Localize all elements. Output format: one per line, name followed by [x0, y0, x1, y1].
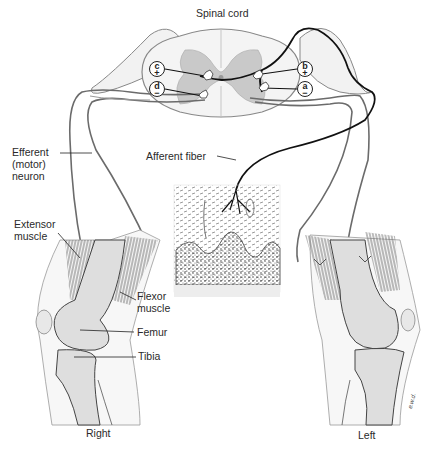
- interneuron-d: d −: [149, 81, 165, 97]
- spinal-cord-label: Spinal cord: [196, 7, 249, 19]
- reflex-arc-diagram: [0, 0, 442, 449]
- left-leg-label: Left: [358, 429, 376, 441]
- interneuron-c: c +: [149, 61, 165, 77]
- femur-label: Femur: [137, 326, 167, 338]
- extensor-muscle-label: Extensor muscle: [14, 218, 55, 242]
- left-leg: [305, 232, 420, 425]
- skin-section: [174, 185, 280, 297]
- efferent-neuron-label: Efferent (motor) neuron: [12, 146, 49, 182]
- right-leg-label: Right: [86, 427, 111, 439]
- interneuron-a: a −: [297, 81, 313, 97]
- tibia-label: Tibia: [138, 350, 160, 362]
- afferent-fiber-label: Afferent fiber: [146, 150, 206, 162]
- flexor-muscle-label: Flexor muscle: [137, 290, 170, 314]
- interneuron-b: b +: [297, 61, 313, 77]
